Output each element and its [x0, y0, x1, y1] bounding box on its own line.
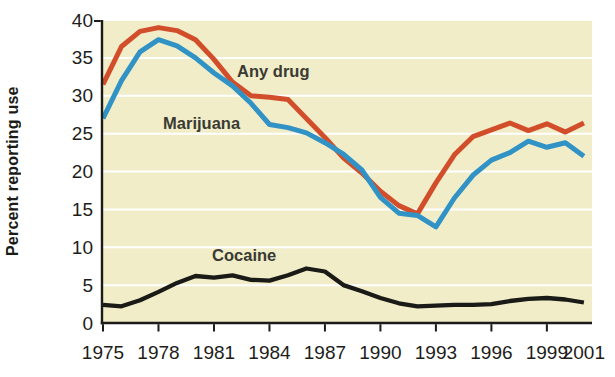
series-label-cocaine: Cocaine: [212, 246, 276, 264]
x-tick-label-1978: 1978: [137, 342, 179, 363]
x-tick-label-1996: 1996: [470, 342, 512, 363]
y-tick-label-20: 20: [72, 161, 93, 182]
x-tick-label-1981: 1981: [193, 342, 235, 363]
x-tick-label-1999: 1999: [526, 342, 568, 363]
x-tick-label-1987: 1987: [304, 342, 346, 363]
y-tick-label-40: 40: [72, 10, 93, 31]
drug-use-trend-chart: Percent reporting use 051015202530354019…: [0, 0, 615, 377]
y-tick-label-5: 5: [82, 275, 93, 296]
x-tick-label-2001: 2001: [563, 342, 605, 363]
y-tick-label-30: 30: [72, 85, 93, 106]
chart-plot: 0510152025303540197519781981198419871990…: [0, 0, 615, 377]
series-label-any-drug: Any drug: [237, 62, 309, 80]
x-tick-label-1984: 1984: [248, 342, 291, 363]
series-label-marijuana: Marijuana: [163, 114, 241, 132]
y-tick-label-15: 15: [72, 199, 93, 220]
y-axis-title: Percent reporting use: [4, 68, 22, 274]
x-tick-label-1975: 1975: [82, 342, 124, 363]
x-tick-label-1993: 1993: [415, 342, 457, 363]
y-tick-label-25: 25: [72, 123, 93, 144]
y-tick-label-10: 10: [72, 237, 93, 258]
y-tick-label-35: 35: [72, 47, 93, 68]
y-tick-label-0: 0: [82, 313, 93, 334]
x-tick-label-1990: 1990: [359, 342, 401, 363]
